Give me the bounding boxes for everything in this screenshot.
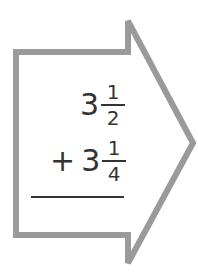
plus-sign: + (50, 146, 75, 176)
addend-1-denominator: 2 (107, 108, 120, 128)
addend-2-whole: 3 (81, 146, 100, 176)
addend-1-numerator: 1 (107, 82, 120, 102)
addend-2: + 3 1 4 (50, 138, 126, 184)
sum-line (31, 196, 124, 198)
addend-2-fraction: 1 4 (102, 138, 126, 184)
addend-1-whole: 3 (80, 90, 99, 120)
addend-2-denominator: 4 (108, 164, 121, 184)
addend-1-fraction: 1 2 (101, 82, 125, 128)
addend-1: 3 1 2 (80, 82, 125, 128)
mixed-number-addition-problem: 3 1 2 + 3 1 4 (0, 0, 198, 272)
addend-2-numerator: 1 (108, 138, 121, 158)
